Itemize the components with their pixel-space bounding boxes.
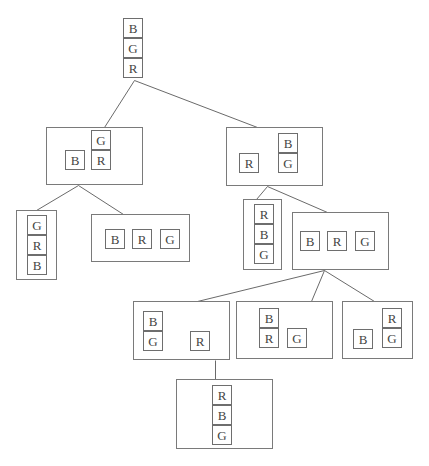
edge-n6-n9 [325,271,375,302]
block-g: G [254,244,274,264]
edge-root-n1 [105,81,135,128]
block-g: G [278,153,298,173]
block-g: G [355,231,375,251]
block-b: B [123,18,143,38]
block-g: G [287,328,307,348]
block-r: R [123,58,143,78]
block-r: R [212,385,232,405]
block-r: R [254,204,274,224]
block-r: R [327,231,347,251]
edge-n1-n3 [37,186,79,211]
block-g: G [27,215,47,235]
block-g: G [91,130,111,150]
block-b: B [143,311,163,331]
block-b: B [300,231,320,251]
block-g: G [382,328,402,348]
block-g: G [143,331,163,351]
block-r: R [239,153,259,173]
block-r: R [91,150,111,170]
block-b: B [65,150,85,170]
block-b: B [259,308,279,328]
block-b: B [278,133,298,153]
block-g: G [123,38,143,58]
block-b: B [353,329,373,349]
edge-n1-n4 [79,186,124,215]
block-r: R [132,229,152,249]
edge-n6-n8 [312,271,325,302]
block-r: R [382,308,402,328]
edge-n6-n7 [198,271,325,302]
block-b: B [27,255,47,275]
block-b: B [212,405,232,425]
diagram-canvas: BGRBGRRBGGRBBRGRBGBRGBGRBRGBRGRBG [0,0,429,466]
block-r: R [27,235,47,255]
edge-n2-n5 [257,187,268,200]
edge-root-n2 [135,81,258,128]
state-node-n8 [236,301,333,359]
block-b: B [254,224,274,244]
block-b: B [105,229,125,249]
block-g: G [212,425,232,445]
block-g: G [160,229,180,249]
block-r: R [259,328,279,348]
block-r: R [190,331,210,351]
